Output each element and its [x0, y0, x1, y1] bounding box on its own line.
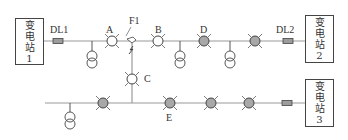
transformer-icon — [65, 103, 75, 129]
switch-a-icon[interactable] — [105, 34, 119, 48]
breaker-dl3[interactable] — [282, 101, 292, 106]
transformer-icon — [225, 41, 235, 68]
substation-2-char: 站 — [315, 39, 325, 50]
transformer-icon — [87, 41, 97, 68]
switch-c-icon[interactable] — [125, 72, 139, 86]
switch-bottom-1-icon[interactable] — [96, 96, 110, 110]
substation-1: 变 电 站 1 — [15, 18, 44, 65]
substation-2-char: 2 — [316, 50, 322, 61]
substation-2-char: 电 — [315, 28, 325, 39]
substation-3-char: 3 — [316, 114, 322, 125]
switch-a-label: A — [106, 25, 113, 35]
breaker-dl1[interactable] — [53, 39, 63, 44]
switch-d-icon[interactable] — [197, 34, 211, 48]
substation-3-char: 电 — [315, 92, 325, 103]
switch-c-label: C — [144, 74, 151, 84]
switch-bottom-3-icon[interactable] — [204, 96, 218, 110]
switch-b-icon[interactable] — [151, 34, 165, 48]
switch-top-4-icon[interactable] — [248, 34, 262, 48]
switch-e-icon[interactable] — [163, 96, 177, 110]
breaker-dl2[interactable] — [283, 39, 293, 44]
fault-f1-label: F1 — [129, 16, 140, 26]
substation-2-char: 变 — [315, 17, 325, 28]
transformer-icon — [175, 41, 185, 68]
substation-3-char: 站 — [315, 103, 325, 114]
substation-3: 变 电 站 3 — [305, 79, 334, 127]
substation-1-char: 电 — [25, 31, 35, 42]
distribution-network-diagram — [0, 0, 348, 140]
substation-1-char: 1 — [26, 53, 32, 64]
switch-b-label: B — [155, 25, 162, 35]
switch-bottom-4-icon[interactable] — [242, 96, 256, 110]
breaker-dl2-label: DL2 — [276, 25, 294, 35]
switch-e-label: E — [166, 113, 172, 123]
substation-2: 变 电 站 2 — [305, 15, 334, 63]
substation-3-char: 变 — [315, 81, 325, 92]
breaker-dl1-label: DL1 — [50, 25, 68, 35]
substation-1-char: 变 — [25, 20, 35, 31]
substation-1-char: 站 — [25, 42, 35, 53]
switch-d-label: D — [200, 25, 207, 35]
